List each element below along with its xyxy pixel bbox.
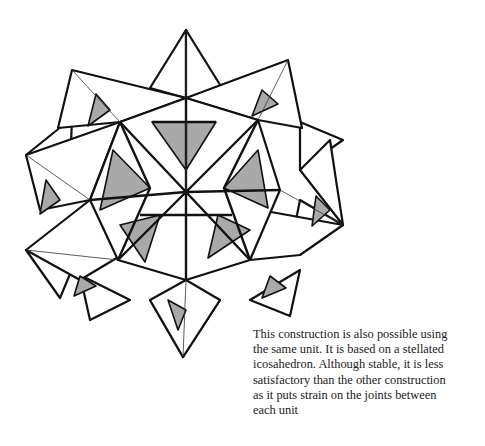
caption-line: icosahedron. Although stable, it is less	[253, 357, 485, 372]
caption-line: the same unit. It is based on a stellate…	[253, 342, 485, 357]
caption-line: each unit	[253, 403, 485, 418]
caption-line: This construction is also possible using	[253, 327, 485, 342]
caption-line: as it puts strain on the joints between	[253, 388, 485, 403]
figure-caption: This construction is also possible using…	[253, 327, 485, 418]
caption-line: satisfactory than the other construction	[253, 373, 485, 388]
